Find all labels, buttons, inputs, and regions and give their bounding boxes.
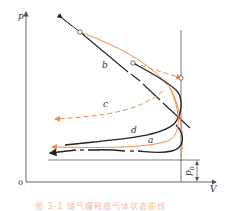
curve-lower-black [138,125,182,153]
curve-a-label: a [148,136,153,145]
state-point-3 [179,76,183,80]
p0-label-sub: 0 [188,166,195,170]
orange-envelope [80,32,182,158]
orange-dashed-top [133,63,181,78]
curve-d-label: d [131,126,137,135]
p0-label-main: p [183,170,193,176]
state-point-2 [131,61,135,65]
curve-c-label: c [103,100,108,109]
p0-label: p0 [184,166,195,176]
pv-diagram [0,0,228,211]
state-point-1 [78,30,82,34]
figure-caption: 图 3-1 储气罐释放气体状态曲线 [35,200,200,210]
curve-b-label: b [102,61,108,70]
origin-label: 0 [18,179,23,187]
x-axis-label: V [210,185,217,194]
y-axis-label: p [18,12,24,21]
curve-c [55,91,163,119]
